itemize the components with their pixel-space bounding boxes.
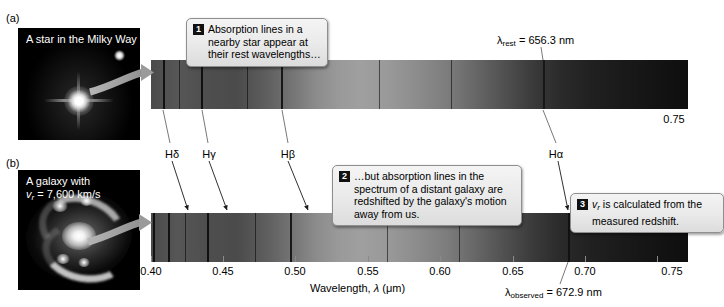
callout-1-text: Absorption lines in a nearby star appear…: [208, 23, 321, 61]
absorption-line-edge: [153, 213, 155, 262]
axis-label-060: 0.60: [429, 265, 450, 277]
callout-3[interactable]: 3 vr is calculated from the measured red…: [570, 193, 724, 233]
galaxy-knot: [78, 258, 90, 267]
spectrum-star-noise: [151, 60, 688, 109]
callout-2[interactable]: 2 …but absorption lines in the spectrum …: [332, 165, 522, 226]
star-primary: [64, 86, 94, 116]
line-label-h-delta: Hδ: [165, 148, 179, 160]
galaxy-core: [62, 222, 96, 250]
axis-tick-055: [368, 256, 369, 262]
star-image-caption: A star in the Milky Way: [26, 33, 137, 46]
leader-h-gamma-top: [202, 110, 208, 143]
callout-3-body: is calculated from the measured redshift…: [592, 198, 702, 227]
callout-1-badge: 1: [193, 24, 204, 35]
line-label-h-alpha: Hα: [549, 148, 563, 160]
lambda-observed-value: = 672.9 nm: [543, 286, 601, 298]
lambda-observed-annotation: λobserved = 672.9 nm: [505, 286, 602, 300]
lambda-rest-subscript: rest: [503, 39, 516, 48]
axis-tick-060: [440, 256, 441, 262]
absorption-line-minor: [247, 60, 248, 109]
axis-label-040: 0.40: [140, 265, 161, 277]
lambda-observed-subscript: observed: [511, 291, 544, 300]
axis-tick-050: [295, 256, 296, 262]
leader-lambda-observed: [560, 262, 568, 284]
callout-3-badge: 3: [577, 199, 588, 210]
axis-label-045: 0.45: [212, 265, 233, 277]
galaxy-caption-line1: A galaxy with: [26, 175, 90, 187]
axis-label-070: 0.70: [574, 265, 595, 277]
axis-label-055: 0.55: [357, 265, 378, 277]
axis-tick-075: [657, 256, 658, 262]
axis-tick-040: [151, 256, 152, 262]
leader-h-beta-top: [282, 110, 288, 143]
absorption-line-minor: [179, 60, 180, 109]
star-secondary: [114, 50, 125, 61]
absorption-line-h-beta: [281, 60, 283, 109]
galaxy-image: A galaxy with vr = 7,600 km/s: [18, 170, 140, 290]
lambda-rest-annotation: λrest = 656.3 nm: [497, 34, 574, 48]
axis-label-065: 0.65: [502, 265, 523, 277]
callout-3-text: vr is calculated from the measured redsh…: [592, 198, 717, 227]
axis-title-units: (μm): [379, 282, 405, 294]
absorption-line-h-alpha: [543, 60, 545, 109]
absorption-line-h-delta: [163, 60, 165, 109]
galaxy-image-caption: A galaxy with vr = 7,600 km/s: [26, 175, 101, 204]
callout-1[interactable]: 1 Absorption lines in a nearby star appe…: [186, 18, 328, 67]
axis-label-050: 0.50: [284, 265, 305, 277]
absorption-line-minor: [451, 60, 452, 109]
leader-lambda-rest: [541, 47, 543, 60]
leader-h-alpha-top: [543, 110, 556, 143]
line-label-h-gamma: Hγ: [202, 148, 215, 160]
callout-2-text: …but absorption lines in the spectrum of…: [354, 170, 515, 220]
spectrum-star-end-label: 0.75: [663, 113, 684, 125]
leader-h-delta-bottom: [172, 161, 188, 210]
star-image: A star in the Milky Way: [18, 28, 140, 140]
leader-h-beta-bottom: [288, 161, 308, 210]
leader-h-gamma-bottom: [209, 161, 227, 210]
line-label-h-beta: Hβ: [281, 148, 295, 160]
axis-title: Wavelength, λ (μm): [0, 282, 715, 294]
axis-tick-045: [223, 256, 224, 262]
lambda-rest-value: = 656.3 nm: [516, 34, 574, 46]
panel-letter-a: (a): [6, 12, 19, 24]
leader-h-alpha-bottom: [558, 161, 568, 210]
absorption-line-h-gamma: [207, 213, 209, 262]
absorption-line-h-delta: [168, 213, 170, 262]
absorption-line-minor: [185, 213, 186, 262]
callout-2-badge: 2: [339, 171, 350, 182]
absorption-line-minor: [379, 60, 380, 109]
absorption-line-h-beta: [290, 213, 292, 262]
absorption-line-h-gamma: [201, 60, 203, 109]
axis-tick-065: [513, 256, 514, 262]
leader-h-delta-top: [163, 110, 170, 143]
panel-letter-b: (b): [6, 157, 19, 169]
axis-title-prefix: Wavelength,: [310, 282, 374, 294]
axis-tick-070: [585, 256, 586, 262]
axis-label-075: 0.75: [661, 265, 682, 277]
galaxy-knot: [56, 254, 70, 264]
galaxy-vr-value: = 7,600 km/s: [34, 188, 100, 200]
spectrum-star: [151, 60, 688, 109]
absorption-line-minor: [255, 213, 256, 262]
